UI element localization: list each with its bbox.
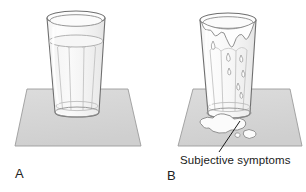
puddle-droplet-b [235, 133, 240, 138]
water-surface-a [49, 35, 103, 47]
figure-container: Subjective symptoms A B [0, 0, 306, 192]
panel-a [15, 11, 141, 146]
panel-b [178, 13, 302, 152]
panel-label-a: A [15, 166, 24, 181]
puddle-satellite-b [243, 130, 256, 139]
caption-subjective-symptoms: Subjective symptoms [180, 154, 291, 166]
glass-rim-inner-a [50, 15, 102, 27]
panel-label-b: B [167, 168, 176, 183]
